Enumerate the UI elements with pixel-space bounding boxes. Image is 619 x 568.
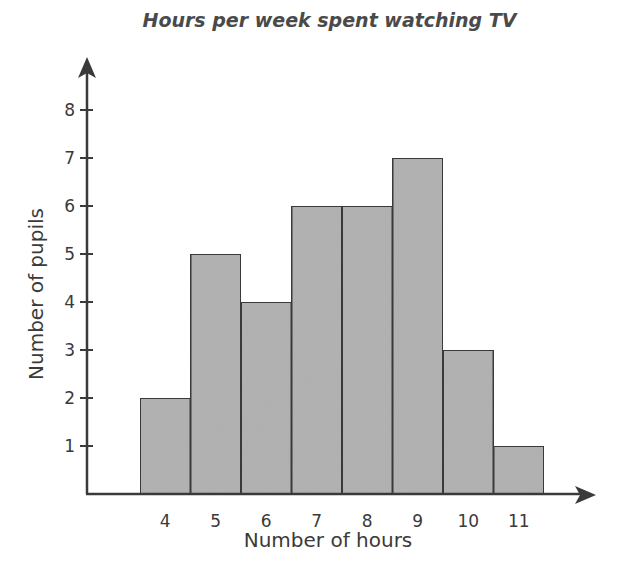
x-tick-label: 9 <box>412 511 423 531</box>
y-tick-label: 6 <box>64 196 75 216</box>
y-axis-ticks: 12345678 <box>64 100 93 456</box>
bar-9 <box>393 158 444 494</box>
x-tick-label: 4 <box>160 511 171 531</box>
bars-group <box>140 158 544 494</box>
bar-7 <box>292 206 343 494</box>
x-tick-label: 5 <box>210 511 221 531</box>
bar-10 <box>443 350 494 494</box>
y-tick-label: 2 <box>64 388 75 408</box>
x-tick-label: 11 <box>508 511 530 531</box>
y-tick-label: 1 <box>64 436 75 456</box>
bar-4 <box>140 398 191 494</box>
bar-6 <box>241 302 292 494</box>
bar-11 <box>494 446 545 494</box>
x-axis-label: Number of hours <box>244 528 413 552</box>
y-tick-label: 4 <box>64 292 75 312</box>
bar-5 <box>191 254 242 494</box>
y-axis-label: Number of pupils <box>24 208 48 380</box>
histogram-plot: 12345678 4567891011 <box>0 0 619 568</box>
x-tick-label: 10 <box>457 511 479 531</box>
y-tick-label: 3 <box>64 340 75 360</box>
y-tick-label: 5 <box>64 244 75 264</box>
y-tick-label: 8 <box>64 100 75 120</box>
y-tick-label: 7 <box>64 148 75 168</box>
bar-8 <box>342 206 393 494</box>
